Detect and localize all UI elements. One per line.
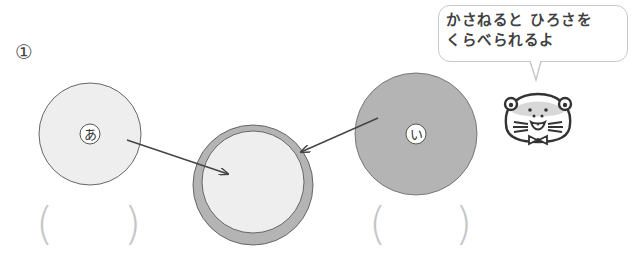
answer-a-field[interactable]	[60, 205, 120, 245]
bubble-line-2: くらべられるよ	[446, 30, 626, 50]
answer-i-close-paren: )	[455, 198, 472, 249]
overlap-circle	[193, 125, 313, 245]
bubble-tail-mask	[531, 59, 540, 63]
speech-bubble-text: かさねると ひろさを くらべられるよ	[446, 10, 626, 50]
bubble-tail	[530, 61, 541, 80]
circle-a-label: あ	[82, 124, 98, 143]
mascot-otter-icon	[498, 86, 578, 148]
bubble-line-1: かさねると ひろさを	[446, 10, 626, 30]
answer-i-field[interactable]	[393, 205, 453, 245]
answer-a-close-paren: )	[124, 198, 141, 249]
answer-i-open-paren: (	[369, 198, 386, 249]
circle-i-label: い	[408, 124, 424, 143]
answer-a-open-paren: (	[36, 198, 53, 249]
